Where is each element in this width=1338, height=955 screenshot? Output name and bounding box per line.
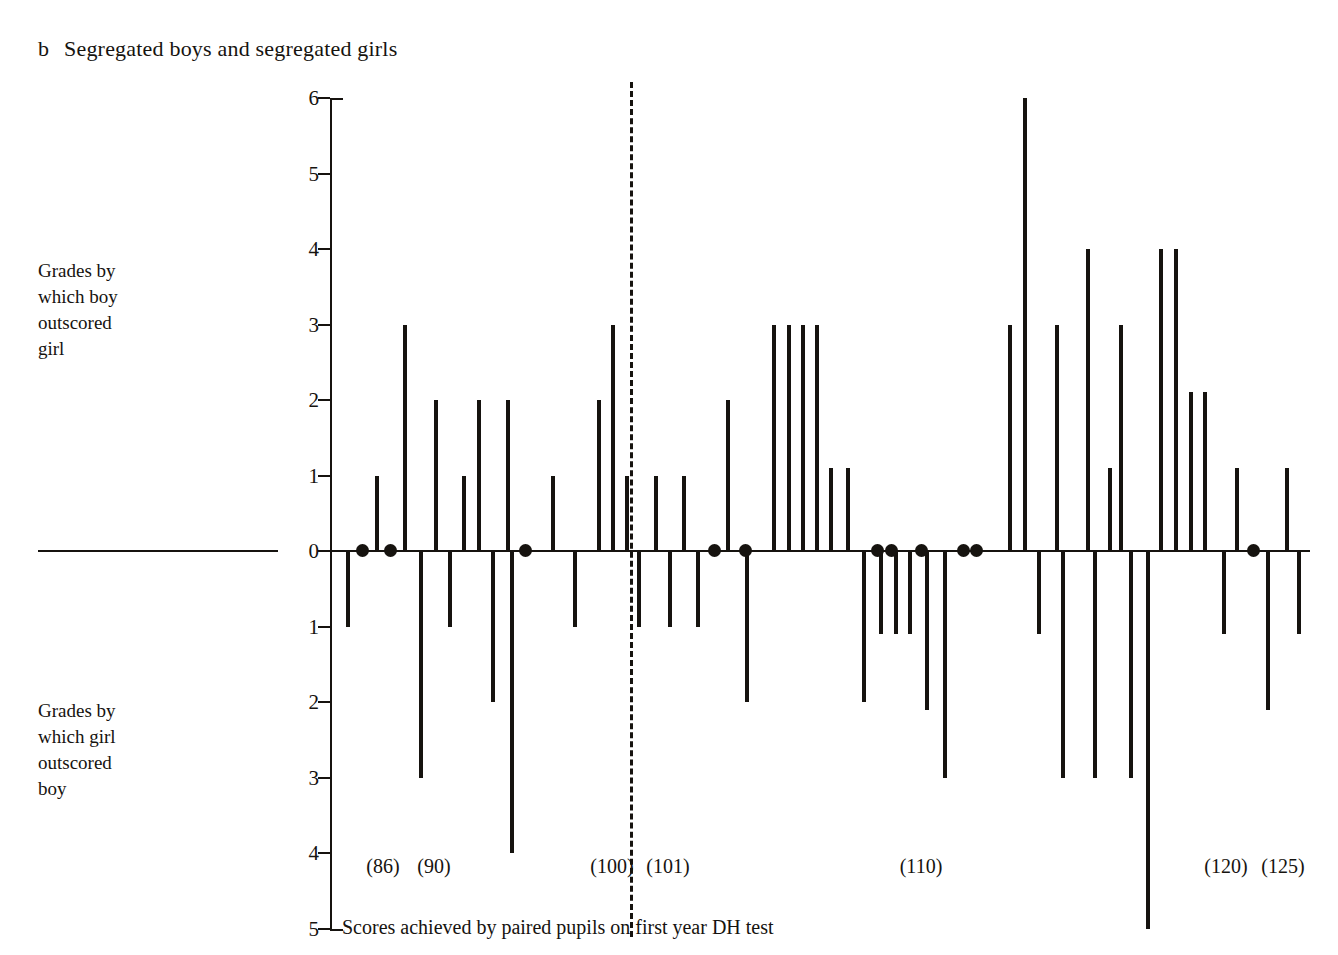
lower-axis-description-line-4: boy: [38, 776, 218, 802]
bar: [510, 551, 514, 853]
x-tick-label: (110): [900, 855, 943, 878]
bar: [846, 468, 850, 551]
bar: [829, 468, 833, 551]
y-tick-label: 4: [309, 239, 320, 260]
tied-pair-dot: [708, 544, 721, 557]
bar: [925, 551, 929, 710]
y-tick-label: 0: [309, 541, 320, 562]
tied-pair-dot: [915, 544, 928, 557]
y-tick-mark: [318, 701, 330, 703]
bar: [696, 551, 700, 627]
bar: [1189, 392, 1193, 551]
bar: [943, 551, 947, 778]
y-tick-mark: [318, 852, 330, 854]
bar: [551, 476, 555, 552]
bar: [403, 325, 407, 552]
bar: [611, 325, 615, 552]
bar: [419, 551, 423, 778]
bar: [491, 551, 495, 702]
dashed-divider-line: [630, 82, 633, 937]
bar: [448, 551, 452, 627]
bar: [787, 325, 791, 552]
y-tick-label: 2: [309, 390, 320, 411]
tied-pair-dot: [1247, 544, 1260, 557]
x-tick-label: (125): [1261, 855, 1304, 878]
y-tick-mark: [318, 173, 330, 175]
bar: [1119, 325, 1123, 552]
tied-pair-dot: [384, 544, 397, 557]
upper-axis-description-line-2: which boy: [38, 284, 218, 310]
y-tick-label: 3: [309, 767, 320, 788]
bar: [1061, 551, 1065, 778]
y-tick-mark: [318, 475, 330, 477]
y-tick-mark: [318, 550, 330, 552]
bar: [375, 476, 379, 552]
bar: [879, 551, 883, 634]
tied-pair-dot: [885, 544, 898, 557]
x-tick-label: (90): [417, 855, 450, 878]
bar: [1222, 551, 1226, 634]
bar: [1266, 551, 1270, 710]
y-tick-mark: [318, 777, 330, 779]
bar: [682, 476, 686, 552]
y-tick-mark: [318, 399, 330, 401]
x-tick-label: (120): [1204, 855, 1247, 878]
y-tick-mark: [318, 97, 330, 99]
bar: [772, 325, 776, 552]
y-axis-spine: [330, 98, 332, 929]
upper-axis-description: Grades by which boy outscored girl: [38, 258, 218, 362]
lower-axis-description-line-3: outscored: [38, 750, 218, 776]
x-axis-caption: Scores achieved by paired pupils on firs…: [342, 916, 774, 939]
bar: [477, 400, 481, 551]
x-tick-label: (101): [646, 855, 689, 878]
upper-axis-description-line-4: girl: [38, 336, 218, 362]
y-tick-mark: [318, 928, 330, 930]
bar: [654, 476, 658, 552]
bar: [668, 551, 672, 627]
y-tick-mark: [318, 626, 330, 628]
bar: [1235, 468, 1239, 551]
bar: [815, 325, 819, 552]
bar: [1285, 468, 1289, 551]
y-axis-top-cap: [330, 98, 343, 100]
bar: [894, 551, 898, 634]
tied-pair-dot: [356, 544, 369, 557]
bar: [908, 551, 912, 634]
bar: [462, 476, 466, 552]
upper-axis-description-line-3: outscored: [38, 310, 218, 336]
panel-title-text: Segregated boys and segregated girls: [64, 36, 397, 61]
bar: [1108, 468, 1112, 551]
lower-axis-description-line-2: which girl: [38, 724, 218, 750]
panel-letter: b: [38, 36, 64, 62]
bar: [1055, 325, 1059, 552]
y-tick-label: 5: [309, 163, 320, 184]
figure-panel-b: bSegregated boys and segregated girls Gr…: [0, 0, 1338, 955]
y-tick-mark: [318, 248, 330, 250]
y-tick-label: 3: [309, 314, 320, 335]
bar: [745, 551, 749, 702]
bar: [573, 551, 577, 627]
tied-pair-dot: [519, 544, 532, 557]
x-tick-label: (100): [590, 855, 633, 878]
bar: [1037, 551, 1041, 634]
y-tick-label: 5: [309, 918, 320, 939]
bar: [506, 400, 510, 551]
bar: [1174, 249, 1178, 551]
bar: [625, 476, 629, 552]
zero-baseline-left-extension: [38, 550, 278, 552]
bar: [1129, 551, 1133, 778]
y-tick-label: 4: [309, 843, 320, 864]
y-tick-label: 1: [309, 465, 320, 486]
bar: [434, 400, 438, 551]
lower-axis-description-line-1: Grades by: [38, 698, 218, 724]
upper-axis-description-line-1: Grades by: [38, 258, 218, 284]
tied-pair-dot: [957, 544, 970, 557]
y-tick-label: 2: [309, 692, 320, 713]
bar: [1146, 551, 1150, 929]
bar: [1008, 325, 1012, 552]
bar: [1159, 249, 1163, 551]
y-tick-label: 1: [309, 616, 320, 637]
plot-area: 654321012345 (86)(90)(100)(101)(110)(120…: [330, 90, 1320, 920]
bar: [726, 400, 730, 551]
panel-title: bSegregated boys and segregated girls: [38, 36, 397, 62]
